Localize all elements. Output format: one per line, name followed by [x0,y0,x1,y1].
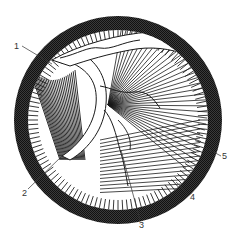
callout-label-4: 4 [190,193,195,202]
callout-label-1: 1 [14,42,19,51]
callout-label-5: 5 [222,152,227,161]
callout-label-2: 2 [22,189,27,198]
membrane-diagram [0,0,236,236]
callout-label-3: 3 [139,221,144,230]
